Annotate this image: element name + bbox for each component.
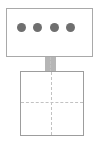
indicator-dot-2[interactable] — [33, 23, 42, 32]
diagram-canvas — [0, 0, 102, 146]
indicator-dot-4[interactable] — [66, 23, 75, 32]
indicator-dot-1[interactable] — [17, 23, 26, 32]
center-guide-vertical-extension — [50, 57, 51, 72]
base-plate[interactable] — [20, 71, 84, 136]
indicator-dot-3[interactable] — [50, 23, 59, 32]
center-guide-vertical — [51, 72, 52, 135]
indicator-dots — [7, 9, 92, 56]
center-guide-horizontal — [21, 102, 83, 103]
display-panel[interactable] — [6, 8, 93, 57]
